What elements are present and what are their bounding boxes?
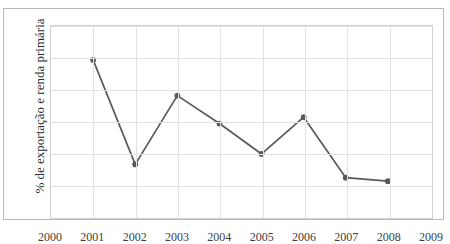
gridline-vertical — [220, 26, 221, 218]
gridline-vertical — [178, 26, 179, 218]
gridline-vertical — [390, 26, 391, 218]
gridline-horizontal — [51, 122, 432, 123]
gridline-vertical — [136, 26, 137, 218]
x-axis-tick-label: 2009 — [406, 231, 450, 243]
gridline-vertical — [347, 26, 348, 218]
gridline-horizontal — [51, 186, 432, 187]
gridline-vertical — [305, 26, 306, 218]
gridline-vertical — [263, 26, 264, 218]
chart-outer-frame: % de exportação e renda primária 2001: 4… — [3, 8, 444, 220]
gridline-horizontal — [51, 58, 432, 59]
cropped-title-remnant — [0, 0, 450, 7]
gridline-vertical — [93, 26, 94, 218]
gridline-horizontal — [51, 90, 432, 91]
y-axis-title: % de exportação e renda primária — [32, 0, 48, 221]
gridline-horizontal — [51, 154, 432, 155]
gridline-horizontal — [51, 26, 432, 27]
plot-area: 2001: 49.32002: 16.32003: 382004: 29.220… — [50, 25, 433, 219]
